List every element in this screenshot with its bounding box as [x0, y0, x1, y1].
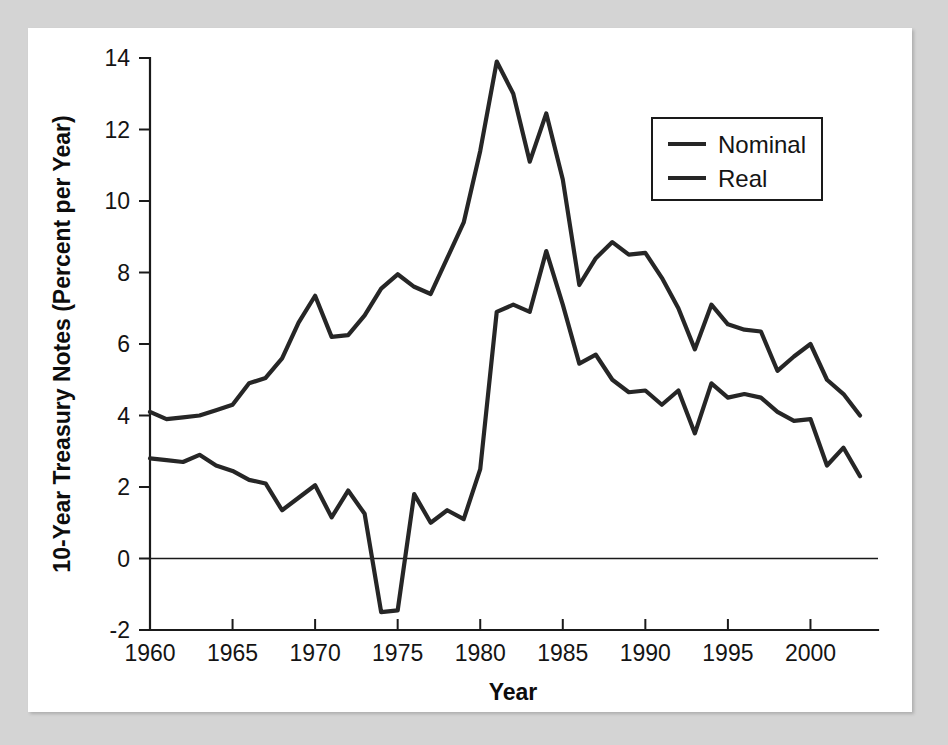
y-axis-tick-marks — [139, 58, 150, 630]
x-tick-label-1960: 1960 — [124, 640, 175, 666]
y-tick-label-14: 14 — [104, 45, 130, 71]
series-line-nominal — [150, 62, 860, 420]
x-tick-label-1970: 1970 — [290, 640, 341, 666]
x-tick-label-1985: 1985 — [537, 640, 588, 666]
chart-legend[interactable]: NominalReal — [652, 118, 822, 200]
x-tick-label-1995: 1995 — [702, 640, 753, 666]
x-tick-label-2000: 2000 — [785, 640, 836, 666]
figure-root: -202468101214 19601965197019751980198519… — [0, 0, 948, 745]
chart-svg: -202468101214 19601965197019751980198519… — [0, 0, 948, 745]
y-axis-title: 10-Year Treasury Notes (Percent per Year… — [49, 115, 75, 572]
y-tick-label-8: 8 — [117, 260, 130, 286]
legend-label-real: Real — [718, 165, 767, 192]
x-tick-label-1975: 1975 — [372, 640, 423, 666]
x-tick-label-1965: 1965 — [207, 640, 258, 666]
y-tick-label-12: 12 — [104, 117, 130, 143]
y-tick-label-4: 4 — [117, 403, 130, 429]
y-tick-label-0: 0 — [117, 546, 130, 572]
y-tick-label-6: 6 — [117, 331, 130, 357]
x-axis-tick-labels: 196019651970197519801985199019952000 — [124, 640, 836, 666]
legend-label-nominal: Nominal — [718, 131, 806, 158]
y-tick-label-10: 10 — [104, 188, 130, 214]
x-axis-title: Year — [489, 679, 538, 705]
y-axis-tick-labels: -202468101214 — [104, 45, 130, 643]
x-tick-label-1980: 1980 — [455, 640, 506, 666]
x-axis-tick-marks — [150, 619, 810, 630]
x-tick-label-1990: 1990 — [620, 640, 671, 666]
y-tick-label-2: 2 — [117, 474, 130, 500]
